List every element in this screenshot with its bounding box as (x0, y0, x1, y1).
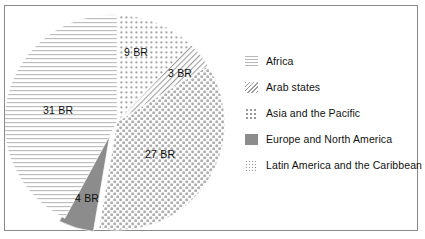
legend-item-label: Latin America and the Caribbean (266, 159, 422, 171)
legend-item-label: Africa (266, 55, 293, 67)
pie-slice-label-latin-america-and-the-caribbean: 27 BR (145, 148, 175, 160)
pie-chart-plot-area: 9 BR 3 BR 27 BR 4 BR 31 BR (5, 6, 241, 239)
solid-gray-swatch-icon (245, 134, 258, 145)
pie-svg (5, 6, 241, 239)
legend-item-label: Europe and North America (266, 133, 392, 145)
legend-item-arab-states: Arab states (245, 74, 421, 100)
pie-chart-screenshot: 9 BR 3 BR 27 BR 4 BR 31 BR Africa Arab s… (0, 0, 425, 239)
legend-item-label: Arab states (266, 81, 320, 93)
pie-slice-label-europe-and-north-america: 4 BR (75, 192, 99, 204)
legend-item-africa: Africa (245, 48, 421, 74)
diagonal-lines-swatch-icon (245, 82, 258, 93)
chart-legend: Africa Arab states Asia and the Pacific … (245, 48, 421, 178)
legend-item-europe-and-north-america: Europe and North America (245, 126, 421, 152)
chart-frame: 9 BR 3 BR 27 BR 4 BR 31 BR Africa Arab s… (4, 5, 418, 231)
legend-item-label: Asia and the Pacific (266, 107, 360, 119)
pie-slice-label-africa: 31 BR (43, 104, 73, 116)
legend-item-latin-america-and-the-caribbean: Latin America and the Caribbean (245, 152, 421, 178)
sparse-dots-swatch-icon (245, 108, 258, 119)
dense-dots-swatch-icon (245, 160, 258, 171)
horizontal-lines-swatch-icon (245, 56, 258, 67)
pie-slice-label-arab-states: 3 BR (168, 67, 192, 79)
pie-slice-label-asia-and-the-pacific: 9 BR (124, 46, 148, 58)
legend-item-asia-and-the-pacific: Asia and the Pacific (245, 100, 421, 126)
